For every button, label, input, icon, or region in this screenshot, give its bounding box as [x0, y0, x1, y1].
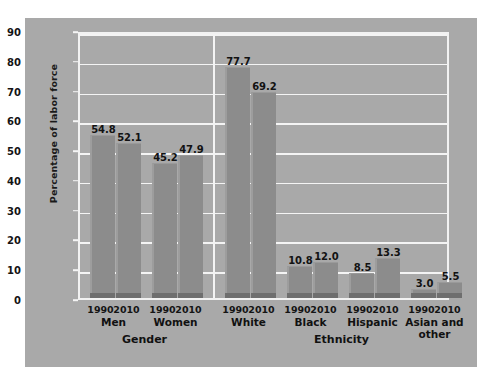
x-section-label: Ethnicity — [223, 333, 460, 346]
bar-base — [375, 293, 400, 298]
x-tick-label-year: 2010 — [368, 304, 404, 315]
bar: 10.8 — [287, 266, 312, 298]
gridline — [80, 64, 447, 66]
y-tick-label: 80 — [0, 56, 21, 67]
x-group-label: Men — [78, 317, 149, 329]
bar: 69.2 — [251, 92, 276, 298]
bar-base — [411, 293, 436, 298]
bar-value-label: 52.1 — [117, 132, 142, 143]
bar: 5.5 — [437, 282, 462, 298]
bar-base — [287, 293, 312, 298]
bar: 13.3 — [375, 258, 400, 298]
plot-area: 54.852.145.247.977.769.210.812.08.513.33… — [78, 32, 449, 300]
bar: 8.5 — [349, 273, 374, 298]
bar-value-label: 12.0 — [314, 251, 339, 262]
bar-value-label: 54.8 — [91, 124, 116, 135]
y-tick-label: 70 — [0, 86, 21, 97]
x-tick-label-year: 2010 — [109, 304, 145, 315]
bar-value-label: 10.8 — [288, 255, 313, 266]
bar: 54.8 — [90, 135, 115, 298]
bar-base — [90, 293, 115, 298]
x-group-label: Black — [275, 317, 346, 329]
y-tick-label: 0 — [0, 295, 21, 306]
bar-base — [152, 293, 177, 298]
bar-value-label: 5.5 — [442, 271, 460, 282]
x-tick-label-year: 2010 — [306, 304, 342, 315]
bar: 3.0 — [411, 289, 436, 298]
y-tick-label: 90 — [0, 27, 21, 38]
gridline — [80, 34, 447, 36]
x-section-label: Gender — [88, 333, 201, 346]
bar-value-label: 77.7 — [226, 56, 251, 67]
x-tick-label-year: 2010 — [171, 304, 207, 315]
y-tick-label: 50 — [0, 146, 21, 157]
bar-base — [116, 293, 141, 298]
bar-value-label: 45.2 — [153, 152, 178, 163]
bar-base — [251, 293, 276, 298]
bar: 12.0 — [313, 262, 338, 298]
bar-value-label: 8.5 — [354, 262, 372, 273]
bar: 77.7 — [225, 67, 250, 298]
bar-value-label: 69.2 — [252, 81, 277, 92]
bar-value-label: 47.9 — [179, 144, 204, 155]
section-divider — [213, 34, 215, 298]
x-group-label: White — [213, 317, 284, 329]
bar-base — [437, 293, 462, 298]
x-group-label: Hispanic — [337, 317, 408, 329]
bar-base — [349, 293, 374, 298]
bar-base — [178, 293, 203, 298]
y-tick-label: 60 — [0, 116, 21, 127]
bar-value-label: 13.3 — [376, 247, 401, 258]
y-axis-title: Percentage of labor force — [48, 44, 59, 224]
bar: 52.1 — [116, 143, 141, 298]
bar-base — [225, 293, 250, 298]
bar: 45.2 — [152, 163, 177, 298]
y-tick-label: 10 — [0, 265, 21, 276]
bar-value-label: 3.0 — [416, 278, 434, 289]
x-group-label: Women — [140, 317, 211, 329]
x-tick-label-year: 2010 — [244, 304, 280, 315]
y-tick-label: 40 — [0, 175, 21, 186]
y-tick-label: 20 — [0, 235, 21, 246]
x-tick-label-year: 2010 — [430, 304, 466, 315]
y-tick-label: 30 — [0, 205, 21, 216]
chart-figure: Percentage of labor force 01020304050607… — [25, 18, 477, 367]
bar-base — [313, 293, 338, 298]
bar: 47.9 — [178, 155, 203, 298]
